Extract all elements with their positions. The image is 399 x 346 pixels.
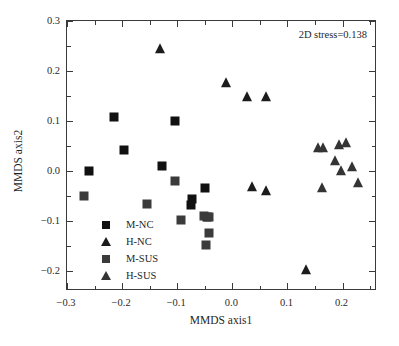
y-minor-tick [67,96,71,97]
legend-swatch-m-nc-icon [95,221,117,229]
x-minor-tick [205,286,206,290]
x-major-tick-top [343,21,344,27]
data-point-m-nc [187,200,196,209]
legend-item-m-sus[interactable]: M-SUS [95,250,158,267]
y-tick-label: 0.0 [28,165,60,176]
x-major-tick [343,283,344,289]
legend: M-NCH-NCM-SUSH-SUS [95,216,158,284]
y-major-tick-right [369,271,375,272]
data-point-h-nc [247,181,257,191]
y-tick-label: −0.1 [28,215,60,226]
y-minor-tick-right [372,196,376,197]
legend-item-h-sus[interactable]: H-SUS [95,267,158,284]
y-tick-label: −0.2 [28,265,60,276]
data-point-m-sus [143,200,152,209]
data-point-m-nc [201,184,210,193]
triangle-marker-icon [101,237,111,246]
legend-label: M-SUS [126,253,158,264]
data-point-h-sus [341,137,351,147]
y-major-tick-right [369,171,375,172]
x-axis-title: MMDS axis1 [66,314,376,326]
x-major-tick [67,283,68,289]
stress-annotation: 2D stress=0.138 [299,29,367,40]
legend-swatch-h-nc-icon [95,237,117,246]
data-point-h-sus [347,161,357,171]
legend-swatch-h-sus-icon [95,271,117,280]
x-tick-label: −0.2 [112,297,131,308]
data-point-m-sus [202,241,211,250]
y-major-tick [67,121,73,122]
x-minor-tick-top [260,21,261,25]
y-minor-tick [67,146,71,147]
data-point-h-nc [301,264,311,274]
y-major-tick-right [369,121,375,122]
x-major-tick [177,283,178,289]
x-major-tick-top [232,21,233,27]
x-minor-tick-top [205,21,206,25]
y-minor-tick-right [372,146,376,147]
nmds-scatter-figure: 2D stress=0.138 M-NCH-NCM-SUSH-SUS −0.3−… [0,0,399,346]
y-minor-tick [67,196,71,197]
data-point-h-sus [353,177,363,187]
y-tick-label: 0.3 [28,15,60,26]
legend-label: H-SUS [126,270,156,281]
data-point-m-sus [204,228,213,237]
x-tick-label: 0.0 [225,297,238,308]
data-point-h-sus [317,182,327,192]
x-tick-label: 0.2 [335,297,348,308]
y-minor-tick-right [372,96,376,97]
y-minor-tick [67,46,71,47]
x-tick-label: 0.1 [280,297,293,308]
y-axis-title: MMDS axis2 [12,91,24,231]
y-major-tick-right [369,71,375,72]
x-minor-tick [150,286,151,290]
data-point-h-nc [261,185,271,195]
y-major-tick [67,71,73,72]
plot-area: 2D stress=0.138 M-NCH-NCM-SUSH-SUS [66,20,376,290]
data-point-m-sus [177,215,186,224]
data-point-m-nc [158,161,167,170]
data-point-h-nc [261,91,271,101]
y-major-tick [67,171,73,172]
legend-label: H-NC [126,236,152,247]
x-tick-label: −0.3 [56,297,75,308]
x-major-tick-top [177,21,178,27]
data-point-h-nc [242,91,252,101]
square-marker-icon [102,221,110,229]
triangle-marker-icon [101,271,111,280]
x-minor-tick [95,286,96,290]
data-point-m-sus [205,212,214,221]
square-marker-icon [102,255,110,263]
y-major-tick [67,21,73,22]
data-point-h-sus [336,165,346,175]
y-minor-tick-right [372,46,376,47]
x-minor-tick [260,286,261,290]
data-point-m-sus [80,191,89,200]
y-major-tick-right [369,21,375,22]
legend-label: M-NC [126,219,153,230]
data-point-m-nc [120,146,129,155]
x-tick-label: −0.1 [167,297,186,308]
legend-item-h-nc[interactable]: H-NC [95,233,158,250]
x-minor-tick-top [315,21,316,25]
x-minor-tick [315,286,316,290]
data-point-m-nc [109,113,118,122]
x-major-tick [287,283,288,289]
legend-item-m-nc[interactable]: M-NC [95,216,158,233]
y-minor-tick [67,246,71,247]
x-major-tick-top [122,21,123,27]
y-major-tick-right [369,221,375,222]
x-major-tick-top [287,21,288,27]
y-tick-label: 0.1 [28,115,60,126]
data-point-m-nc [84,166,93,175]
x-minor-tick [370,286,371,290]
data-point-h-sus [330,155,340,165]
data-point-m-nc [171,117,180,126]
x-minor-tick-top [150,21,151,25]
y-major-tick [67,271,73,272]
data-point-m-sus [171,177,180,186]
legend-swatch-m-sus-icon [95,255,117,263]
y-minor-tick-right [372,246,376,247]
x-major-tick [232,283,233,289]
data-point-h-sus [318,142,328,152]
